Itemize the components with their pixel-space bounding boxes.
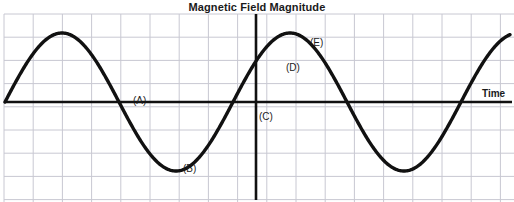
annotation-label-d: (D) <box>286 62 300 73</box>
magnetic-field-figure: Magnetic Field Magnitude Time (A) (B) (C… <box>0 0 514 202</box>
annotation-label-a: (A) <box>133 95 146 106</box>
x-axis-label: Time <box>482 88 505 99</box>
annotation-label-c: (C) <box>259 111 273 122</box>
annotation-label-e: (E) <box>310 37 323 48</box>
plot-canvas <box>0 0 514 202</box>
page-title: Magnetic Field Magnitude <box>0 1 514 13</box>
annotation-label-b: (B) <box>183 163 196 174</box>
